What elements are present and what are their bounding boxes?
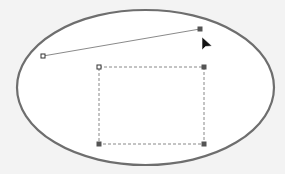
drawing-canvas[interactable]	[0, 0, 285, 174]
line-start-handle[interactable]	[41, 54, 45, 58]
ellipse-shape[interactable]	[17, 10, 274, 165]
selection-handle[interactable]	[202, 142, 206, 146]
drawing-surface[interactable]	[0, 0, 285, 174]
selection-handle[interactable]	[202, 65, 206, 69]
line-end-handle[interactable]	[198, 27, 202, 31]
selection-handle[interactable]	[97, 142, 101, 146]
selection-handle[interactable]	[97, 65, 101, 69]
